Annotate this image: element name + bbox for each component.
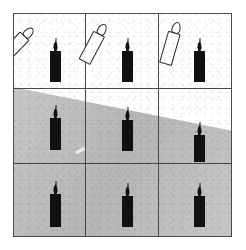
candle-body: [50, 118, 61, 150]
candle-body: [194, 51, 205, 82]
grid-column-divider-2: [158, 14, 159, 236]
candle-body: [194, 135, 205, 162]
candle-body: [50, 51, 61, 82]
candle-body: [122, 51, 133, 82]
outline-candle-top-left: [28, 23, 37, 32]
candle-body-outline: [79, 31, 106, 65]
outline-candle-top-right: [171, 20, 183, 24]
grid-row-divider-2: [14, 163, 231, 164]
outline-candle-top-center: [99, 21, 110, 27]
candle-body: [122, 196, 133, 227]
figure-canvas: [0, 0, 246, 250]
candle-body-outline: [159, 31, 181, 66]
candle-body: [194, 196, 205, 227]
candle-body: [50, 194, 61, 227]
grid-row-divider-1: [14, 88, 231, 89]
three-by-three-photo-panel: [13, 13, 232, 237]
candle-body: [122, 120, 133, 151]
